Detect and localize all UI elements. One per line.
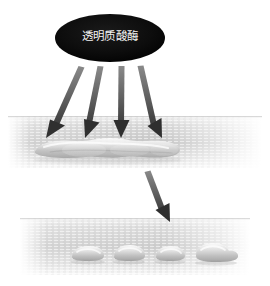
tissue-band-before — [8, 116, 262, 168]
diagram-canvas — [0, 0, 270, 286]
transformation-arrow — [145, 171, 171, 223]
figure-root: 透明质酸酶 — [0, 0, 270, 286]
continuous-filler-deposit — [35, 138, 180, 158]
tissue-band-after — [20, 218, 250, 275]
enzyme-node[interactable] — [55, 14, 165, 62]
